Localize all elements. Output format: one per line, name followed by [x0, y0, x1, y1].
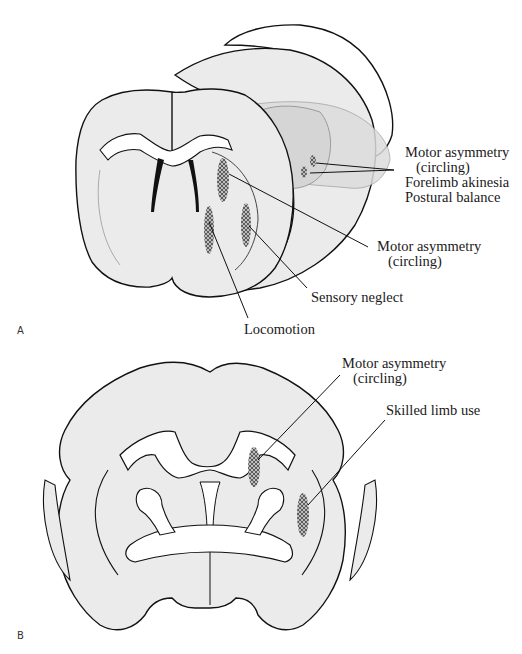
- annotation-line: (circling): [377, 254, 481, 269]
- annotation-line: Motor asymmetry: [405, 145, 509, 160]
- front-section-outline: [76, 89, 293, 297]
- annotation-line: Motor asymmetry: [377, 239, 481, 254]
- lesion-striatum-lower-right: [241, 203, 251, 247]
- lesion-nigra-2: [301, 166, 307, 178]
- annotation-a-motor-asymmetry: Motor asymmetry (circling): [377, 239, 481, 269]
- annotation-a-motor-forelimb-postural: Motor asymmetry (circling) Forelimb akin…: [405, 145, 509, 205]
- lesion-motor-cortex-b: [297, 493, 309, 537]
- panel-a-drawing: [76, 25, 394, 318]
- annotation-a-sensory-neglect: Sensory neglect: [311, 290, 403, 305]
- lateral-flap-right: [350, 480, 376, 580]
- lesion-striatum-b: [248, 447, 260, 487]
- annotation-b-skilled-limb-use: Skilled limb use: [386, 403, 480, 418]
- annotation-a-locomotion: Locomotion: [244, 322, 315, 337]
- panel-b-drawing: [44, 362, 385, 629]
- annotation-line: Motor asymmetry: [342, 356, 446, 371]
- annotation-line: (circling): [405, 160, 509, 175]
- annotation-b-motor-asymmetry: Motor asymmetry (circling): [342, 356, 446, 386]
- lesion-striatum-upper: [217, 158, 229, 202]
- annotation-line: Forelimb akinesia: [405, 175, 509, 190]
- panel-label-b: B: [17, 630, 24, 641]
- lesion-nigra-1: [310, 155, 316, 167]
- annotation-line: Postural balance: [405, 190, 509, 205]
- annotation-line: (circling): [342, 371, 446, 386]
- panel-label-a: A: [17, 325, 24, 336]
